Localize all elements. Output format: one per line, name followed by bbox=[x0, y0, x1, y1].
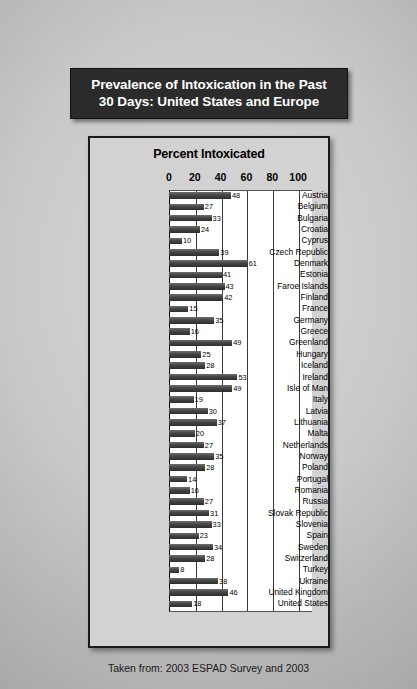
bar-value-label: 35 bbox=[215, 451, 223, 462]
bar-row: Romania16 bbox=[90, 485, 328, 496]
bar bbox=[169, 226, 200, 233]
bar-row: United Kingdom46 bbox=[90, 587, 328, 598]
bar-row: Turkey8 bbox=[90, 564, 328, 575]
bar-value-label: 48 bbox=[232, 190, 240, 201]
bar bbox=[169, 521, 212, 528]
bar bbox=[169, 476, 187, 483]
category-label: Lithuania bbox=[252, 417, 328, 428]
bar-row: Denmark61 bbox=[90, 258, 328, 269]
bar-value-label: 49 bbox=[233, 337, 241, 348]
bar-row: United States18 bbox=[90, 598, 328, 609]
bar-row: Austria48 bbox=[90, 190, 328, 201]
bar bbox=[169, 192, 231, 199]
bar-row: Latvia30 bbox=[90, 406, 328, 417]
bar-value-label: 10 bbox=[183, 235, 191, 246]
bar-value-label: 41 bbox=[223, 269, 231, 280]
x-axis-tick-100: 100 bbox=[289, 171, 307, 183]
bar bbox=[169, 328, 190, 335]
bar bbox=[169, 396, 194, 403]
bar-row: Belgium27 bbox=[90, 201, 328, 212]
bar-row: Italy19 bbox=[90, 394, 328, 405]
bar-value-label: 20 bbox=[196, 428, 204, 439]
category-label: Portugal bbox=[252, 474, 328, 485]
category-label: France bbox=[252, 303, 328, 314]
poster-title-line-1: Prevalence of Intoxication in the Past bbox=[77, 76, 341, 93]
bar bbox=[169, 601, 192, 608]
bar-value-label: 19 bbox=[195, 394, 203, 405]
bar-row: Ukraine38 bbox=[90, 576, 328, 587]
bar-value-label: 53 bbox=[238, 372, 246, 383]
x-axis-tick-20: 20 bbox=[189, 171, 201, 183]
category-label: Malta bbox=[252, 428, 328, 439]
category-label: Finland bbox=[252, 292, 328, 303]
bar-row: Slovenia33 bbox=[90, 519, 328, 530]
bar-value-label: 14 bbox=[188, 474, 196, 485]
bar bbox=[169, 464, 205, 471]
bar bbox=[169, 555, 205, 562]
bar-value-label: 38 bbox=[219, 576, 227, 587]
plot-wrap: Austria48Belgium27Bulgaria33Croatia24Cyp… bbox=[90, 190, 328, 610]
category-label: Netherlands bbox=[252, 440, 328, 451]
bar-row: Iceland28 bbox=[90, 360, 328, 371]
bar-value-label: 35 bbox=[215, 315, 223, 326]
bar bbox=[169, 317, 214, 324]
category-label: Greenland bbox=[252, 337, 328, 348]
bar-row: France15 bbox=[90, 303, 328, 314]
category-label: Sweden bbox=[252, 542, 328, 553]
bar bbox=[169, 340, 232, 347]
bar-row: Greece16 bbox=[90, 326, 328, 337]
category-label: Poland bbox=[252, 462, 328, 473]
bar bbox=[169, 589, 228, 596]
bar-value-label: 33 bbox=[213, 519, 221, 530]
bar-row: Cyprus10 bbox=[90, 235, 328, 246]
bar-row: Portugal14 bbox=[90, 474, 328, 485]
category-label: Germany bbox=[252, 315, 328, 326]
x-axis-tick-0: 0 bbox=[166, 171, 172, 183]
category-label: Switzerland bbox=[252, 553, 328, 564]
category-label: Latvia bbox=[252, 406, 328, 417]
bar-row: Estonia41 bbox=[90, 269, 328, 280]
bar-row: Slovak Republic31 bbox=[90, 508, 328, 519]
category-label: Croatia bbox=[252, 224, 328, 235]
bar-value-label: 24 bbox=[201, 224, 209, 235]
x-axis-tick-40: 40 bbox=[215, 171, 227, 183]
bar bbox=[169, 249, 219, 256]
bar bbox=[169, 408, 208, 415]
bar-value-label: 25 bbox=[202, 349, 210, 360]
bar-rows: Austria48Belgium27Bulgaria33Croatia24Cyp… bbox=[90, 190, 328, 610]
category-label: Belgium bbox=[252, 201, 328, 212]
bar bbox=[169, 498, 204, 505]
bar bbox=[169, 283, 225, 290]
bar bbox=[169, 430, 195, 437]
bar-row: Poland28 bbox=[90, 462, 328, 473]
bar-value-label: 18 bbox=[193, 598, 201, 609]
bar-row: Hungary25 bbox=[90, 349, 328, 360]
bar-row: Norway35 bbox=[90, 451, 328, 462]
bar-value-label: 34 bbox=[214, 542, 222, 553]
bar-row: Ireland53 bbox=[90, 372, 328, 383]
bar-row: Spain23 bbox=[90, 530, 328, 541]
category-label: United States bbox=[252, 598, 328, 609]
bar-value-label: 27 bbox=[205, 201, 213, 212]
category-label: United Kingdom bbox=[252, 587, 328, 598]
bar-row: Germany35 bbox=[90, 315, 328, 326]
category-label: Cyprus bbox=[252, 235, 328, 246]
bar-row: Croatia24 bbox=[90, 224, 328, 235]
category-label: Romania bbox=[252, 485, 328, 496]
bar-value-label: 28 bbox=[206, 360, 214, 371]
bar-value-label: 61 bbox=[249, 258, 257, 269]
bar bbox=[169, 442, 204, 449]
bar bbox=[169, 215, 212, 222]
bar-row: Lithuania37 bbox=[90, 417, 328, 428]
bar-value-label: 8 bbox=[180, 564, 184, 575]
bar-value-label: 16 bbox=[191, 326, 199, 337]
category-label: Spain bbox=[252, 530, 328, 541]
bar-value-label: 31 bbox=[210, 508, 218, 519]
category-label: Bulgaria bbox=[252, 213, 328, 224]
category-label: Isle of Man bbox=[252, 383, 328, 394]
category-label: Austria bbox=[252, 190, 328, 201]
bar bbox=[169, 510, 209, 517]
category-label: Czech Republic bbox=[252, 247, 328, 258]
bar bbox=[169, 294, 223, 301]
bar-value-label: 43 bbox=[226, 281, 234, 292]
